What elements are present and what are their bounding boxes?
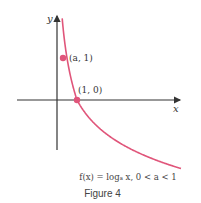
- x-axis-label: x: [173, 103, 179, 114]
- figure-caption: Figure 4: [2, 188, 201, 199]
- point-label: (1, 0): [78, 85, 102, 95]
- formula-caption: f(x) = logₐ x, 0 < a < 1: [55, 172, 201, 182]
- figure-label: Figure 4: [84, 188, 121, 199]
- data-point: [74, 97, 80, 103]
- y-axis-label: y: [46, 13, 53, 24]
- data-point: [60, 55, 66, 61]
- formula-text: f(x) = logₐ x, 0 < a < 1: [79, 172, 177, 182]
- point-label: (a, 1): [69, 53, 93, 63]
